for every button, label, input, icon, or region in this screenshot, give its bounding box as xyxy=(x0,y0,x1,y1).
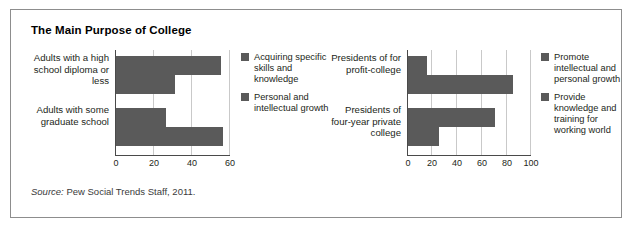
legend-swatch-icon xyxy=(241,53,249,61)
bar-right-g1-s0 xyxy=(408,108,495,127)
legend-swatch-icon xyxy=(541,93,549,101)
source-text: Pew Social Trends Staff, 2011. xyxy=(64,186,196,197)
page-title: The Main Purpose of College xyxy=(31,24,192,36)
bar-right-g1-s1 xyxy=(408,127,439,146)
x-tick-right-0: 0 xyxy=(405,158,410,168)
plot-area-right: 0 20 40 60 80 100 xyxy=(407,50,531,156)
legend-item-right-1: Provide knowledge and training for worki… xyxy=(541,92,621,137)
bar-left-g1-s0 xyxy=(116,108,166,127)
gridline-right-100 xyxy=(530,50,531,156)
legend-label-right-1: Provide knowledge and training for worki… xyxy=(554,92,621,137)
x-tick-left-40: 40 xyxy=(187,158,197,168)
figure-frame: The Main Purpose of College Adults with … xyxy=(10,9,622,218)
legend-right: Promote intellectual and personal growth… xyxy=(541,52,621,142)
gridline-right-40 xyxy=(456,50,457,156)
bar-right-g0-s1 xyxy=(408,75,513,94)
legend-label-right-0: Promote intellectual and personal growth xyxy=(554,52,621,86)
category-label-right-0: Presidents of for profit-college xyxy=(331,52,401,75)
legend-left: Acquiring specific skills and knowledge … xyxy=(241,52,333,120)
x-tick-right-100: 100 xyxy=(523,158,538,168)
legend-label-left-1: Personal and intellectual growth xyxy=(254,92,333,114)
bar-right-g0-s0 xyxy=(408,56,427,75)
category-label-left-1: Adults with some graduate school xyxy=(23,104,109,127)
legend-item-left-0: Acquiring specific skills and knowledge xyxy=(241,52,333,86)
source-note: Source: Pew Social Trends Staff, 2011. xyxy=(31,186,195,197)
plot-area-left: 0 20 40 60 xyxy=(115,50,230,156)
gridline-right-80 xyxy=(506,50,507,156)
x-axis-right xyxy=(407,155,531,156)
chart-panel-right: Presidents of for profit-college Preside… xyxy=(331,46,621,176)
x-tick-right-80: 80 xyxy=(502,158,512,168)
x-tick-right-60: 60 xyxy=(477,158,487,168)
chart-panel-left: Adults with a high school diploma or les… xyxy=(23,46,333,176)
x-axis-left xyxy=(115,155,230,156)
x-tick-right-40: 40 xyxy=(452,158,462,168)
x-tick-left-20: 20 xyxy=(149,158,159,168)
category-label-right-1: Presidents of four-year private college xyxy=(331,104,401,139)
bar-left-g0-s1 xyxy=(116,75,175,94)
source-label: Source: xyxy=(31,186,64,197)
legend-label-left-0: Acquiring specific skills and knowledge xyxy=(254,52,333,86)
legend-swatch-icon xyxy=(541,53,549,61)
category-label-left-0: Adults with a high school diploma or les… xyxy=(23,52,109,87)
bar-left-g0-s0 xyxy=(116,56,221,75)
gridline-right-60 xyxy=(481,50,482,156)
gridline-left-60 xyxy=(229,50,230,156)
x-tick-left-0: 0 xyxy=(113,158,118,168)
legend-swatch-icon xyxy=(241,93,249,101)
x-tick-right-20: 20 xyxy=(427,158,437,168)
legend-item-right-0: Promote intellectual and personal growth xyxy=(541,52,621,86)
legend-item-left-1: Personal and intellectual growth xyxy=(241,92,333,114)
bar-left-g1-s1 xyxy=(116,127,223,146)
x-tick-left-60: 60 xyxy=(225,158,235,168)
